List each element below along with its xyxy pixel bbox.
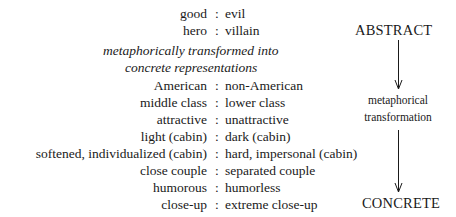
arrows-graphic — [0, 0, 456, 217]
down-arrow-icon — [395, 130, 402, 192]
down-arrow-icon — [395, 40, 402, 89]
